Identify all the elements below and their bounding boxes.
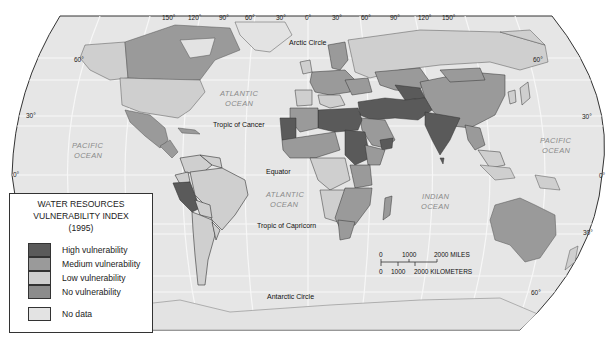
svg-text:150°: 150° [442, 14, 456, 21]
svg-text:60°: 60° [533, 56, 543, 63]
svg-text:2000 KILOMETERS: 2000 KILOMETERS [414, 268, 473, 275]
svg-text:OCEAN: OCEAN [225, 99, 253, 108]
svg-text:60°: 60° [74, 56, 84, 63]
medium-swatch [28, 257, 51, 271]
svg-text:0: 0 [379, 251, 383, 258]
svg-text:60°: 60° [531, 289, 541, 296]
legend-item-none: No vulnerability [28, 285, 121, 299]
svg-text:90°: 90° [219, 14, 229, 21]
svg-text:90°: 90° [390, 14, 400, 21]
equator-label: Equator [266, 168, 291, 176]
svg-text:120°: 120° [188, 14, 202, 21]
svg-text:30°: 30° [582, 113, 592, 120]
legend: WATER RESOURCES VULNERABILITY INDEX (199… [9, 193, 153, 333]
svg-text:30°: 30° [583, 229, 593, 236]
legend-item-high: High vulnerability [28, 243, 127, 257]
svg-text:0: 0 [379, 268, 383, 275]
svg-text:60°: 60° [245, 14, 255, 21]
svg-text:PACIFIC: PACIFIC [540, 136, 571, 145]
svg-text:120°: 120° [418, 14, 432, 21]
svg-text:OCEAN: OCEAN [421, 202, 449, 211]
low-swatch [28, 271, 51, 285]
svg-text:OCEAN: OCEAN [74, 151, 102, 160]
tropic-of-capricorn-label: Tropic of Capricorn [257, 222, 316, 230]
svg-text:60°: 60° [361, 14, 371, 21]
svg-text:OCEAN: OCEAN [270, 200, 298, 209]
svg-text:30°: 30° [332, 14, 342, 21]
world-map: 150° 120° 90° 60° 30° 0° 30° 60° 90° 120… [0, 0, 616, 345]
svg-text:2000 MILES: 2000 MILES [434, 251, 470, 258]
high-swatch [28, 243, 51, 257]
none-swatch [28, 285, 51, 299]
svg-text:PACIFIC: PACIFIC [72, 141, 103, 150]
svg-text:30°: 30° [26, 112, 36, 119]
tropic-of-cancer-label: Tropic of Cancer [213, 121, 265, 129]
legend-item-medium: Medium vulnerability [28, 257, 140, 271]
svg-text:OCEAN: OCEAN [542, 146, 570, 155]
antarctic-circle-label: Antarctic Circle [267, 293, 314, 300]
svg-text:INDIAN: INDIAN [422, 192, 450, 201]
svg-text:150°: 150° [162, 14, 176, 21]
svg-text:ATLANTIC: ATLANTIC [219, 89, 258, 98]
svg-text:0°: 0° [305, 14, 312, 21]
legend-item-low: Low vulnerability [28, 271, 126, 285]
svg-text:1000: 1000 [391, 268, 406, 275]
legend-item-nodata: No data [28, 307, 92, 321]
svg-text:0°: 0° [599, 172, 606, 179]
svg-text:1000: 1000 [402, 251, 417, 258]
nodata-swatch [28, 307, 51, 321]
svg-text:ATLANTIC: ATLANTIC [265, 190, 304, 199]
legend-title: WATER RESOURCES VULNERABILITY INDEX (199… [10, 198, 152, 234]
svg-text:30°: 30° [276, 14, 286, 21]
svg-text:0°: 0° [13, 171, 20, 178]
arctic-circle-label: Arctic Circle [289, 39, 326, 46]
